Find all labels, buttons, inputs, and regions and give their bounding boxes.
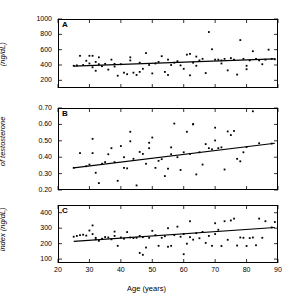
panel-a-y-tick-label: 400 [0, 61, 52, 68]
panel-b-y-tick-label: 0.70 [0, 104, 52, 111]
x-tick-label: 60 [174, 266, 194, 273]
panel-c-y-tick-label: 200 [0, 240, 52, 247]
panel-b: B [58, 108, 278, 190]
panel-b-y-tick-label: 0.60 [0, 120, 52, 127]
panel-c-y-tick-label: 300 [0, 224, 52, 231]
panel-c: C [58, 205, 278, 263]
panel-a-y-tick-label: 600 [0, 46, 52, 53]
panel-a-y-tick-label: 1000 [0, 15, 52, 22]
figure-container: A Serum testosterone (ng/dL) B Fractiona… [0, 0, 293, 307]
panel-c-plot [58, 205, 278, 263]
panel-c-y-tick-label: 400 [0, 209, 52, 216]
panel-a-y-tick-label: 200 [0, 76, 52, 83]
x-tick-label: 80 [237, 266, 257, 273]
x-tick-label: 40 [111, 266, 131, 273]
panel-a-plot [58, 19, 278, 88]
panel-a-y-tick-label: 800 [0, 30, 52, 37]
x-axis-title: Age (years) [0, 284, 293, 293]
panel-c-y-tick-label: 100 [0, 255, 52, 262]
panel-b-y-tick-label: 0.30 [0, 170, 52, 177]
panel-b-y-tick-label: 0.40 [0, 153, 52, 160]
x-tick-label: 50 [142, 266, 162, 273]
panel-b-plot [58, 108, 278, 190]
panel-b-y-tick-label: 0.20 [0, 186, 52, 193]
panel-a: A [58, 19, 278, 88]
x-tick-label: 70 [205, 266, 225, 273]
x-tick-label: 30 [79, 266, 99, 273]
panel-b-y-tick-label: 0.50 [0, 137, 52, 144]
x-tick-label: 20 [48, 266, 68, 273]
x-tick-label: 90 [268, 266, 288, 273]
